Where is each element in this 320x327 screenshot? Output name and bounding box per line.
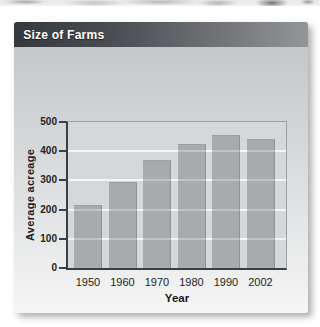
bar-1960 (109, 182, 137, 268)
bar-1950 (74, 205, 102, 268)
bar-1970 (143, 160, 171, 268)
y-tick-label-100: 100 (29, 233, 57, 244)
y-tick-200 (59, 209, 66, 211)
gridline-overlay-100 (68, 238, 286, 240)
y-tick-300 (59, 179, 66, 181)
y-axis-title: Average acreage (17, 121, 43, 269)
panel-title: Size of Farms (14, 22, 104, 47)
y-tick-100 (59, 238, 66, 240)
y-tick-400 (59, 150, 66, 152)
y-tick-label-200: 200 (29, 204, 57, 215)
size-of-farms-panel: Size of Farms Average acreage Year Sourc… (14, 22, 308, 313)
y-tick-label-500: 500 (29, 116, 57, 127)
y-tick-label-0: 0 (29, 262, 57, 273)
bar-2002 (247, 139, 275, 268)
y-tick-500 (59, 121, 66, 123)
y-tick-label-400: 400 (29, 145, 57, 156)
y-tick-0 (59, 267, 66, 269)
figure-page: Size of Farms Average acreage Year Sourc… (0, 0, 320, 327)
gridline-overlay-200 (68, 209, 286, 211)
bar-1980 (178, 144, 206, 268)
gridline-overlay-400 (68, 150, 286, 152)
plot-area (66, 121, 287, 270)
y-tick-label-300: 300 (29, 174, 57, 185)
x-axis-title: Year (147, 292, 207, 304)
bar-1990 (212, 135, 240, 268)
x-tick-label-2002: 2002 (241, 276, 281, 289)
gridline-overlay-300 (68, 179, 286, 181)
photo-strip-fragment (0, 0, 320, 6)
panel-header: Size of Farms (14, 22, 308, 47)
chart-body: Average acreage Year Source: U.S. Depart… (14, 47, 308, 313)
